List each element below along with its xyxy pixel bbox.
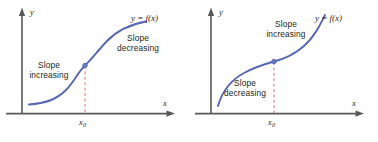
right-slope-increasing-line1: Slope — [257, 19, 315, 29]
right-slope-increasing-line2: increasing — [257, 29, 315, 39]
right-inflection-point — [272, 59, 277, 64]
left-slope-increasing-line2: increasing — [20, 70, 78, 80]
right-slope-decreasing-line1: Slope — [216, 78, 274, 88]
left-slope-decreasing-line2: decreasing — [109, 43, 167, 53]
right-x-axis-label: x — [352, 98, 356, 108]
left-slope-decreasing-annotation: Slope decreasing — [109, 33, 167, 53]
left-x-axis-label: x — [163, 98, 167, 108]
chart-panel-left: y = f(x) y x Slope decreasing Slope incr… — [0, 0, 189, 142]
right-y-axis-arrowhead — [208, 8, 214, 17]
right-x0-tick-label: x0 — [268, 117, 275, 127]
right-slope-decreasing-annotation: Slope decreasing — [216, 78, 274, 98]
left-y-axis-arrowhead — [19, 8, 25, 17]
left-x-axis-arrowhead — [167, 111, 176, 117]
chart-panel-right: y = f(x) y x Slope increasing Slope decr… — [189, 0, 378, 142]
left-y-axis-label: y — [30, 7, 34, 17]
left-slope-increasing-annotation: Slope increasing — [20, 60, 78, 80]
right-slope-increasing-annotation: Slope increasing — [257, 19, 315, 39]
left-slope-decreasing-line1: Slope — [109, 33, 167, 43]
right-x0-tick-subscript: 0 — [272, 121, 275, 128]
right-slope-decreasing-line2: decreasing — [216, 88, 274, 98]
right-y-axis-label: y — [219, 7, 223, 17]
left-x0-tick-subscript: 0 — [83, 121, 86, 128]
left-x0-tick-label: x0 — [79, 117, 86, 127]
left-inflection-point — [83, 63, 88, 68]
right-function-label: y = f(x) — [315, 13, 342, 23]
figure-container: y = f(x) y x Slope decreasing Slope incr… — [0, 0, 378, 142]
left-slope-increasing-line1: Slope — [20, 60, 78, 70]
right-x-axis-arrowhead — [356, 111, 365, 117]
left-function-label: y = f(x) — [131, 13, 158, 23]
